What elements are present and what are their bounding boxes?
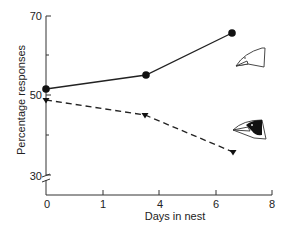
masked-bird-head-icon bbox=[233, 120, 266, 139]
data-point bbox=[228, 29, 236, 37]
y-tick-50: 50 bbox=[30, 89, 42, 101]
y-tick-70: 70 bbox=[30, 10, 42, 22]
x-tick-4: 4 bbox=[157, 198, 163, 210]
x-tick-0: 0 bbox=[44, 198, 50, 210]
series-masked-head-line bbox=[46, 100, 233, 152]
series-plain-head-line bbox=[46, 33, 232, 89]
x-tick-8: 8 bbox=[269, 198, 275, 210]
line-chart: 70 50 30 0 1 4 6 8 Days in nest Percenta… bbox=[0, 0, 291, 232]
x-tick-1: 1 bbox=[100, 198, 106, 210]
data-point bbox=[230, 150, 237, 156]
plain-bird-head-icon bbox=[236, 48, 265, 67]
x-axis-label: Days in nest bbox=[145, 210, 206, 222]
y-tick-30: 30 bbox=[30, 170, 42, 182]
data-point bbox=[142, 71, 150, 79]
y-axis-label: Percentage responses bbox=[15, 44, 27, 155]
x-tick-6: 6 bbox=[213, 198, 219, 210]
data-point bbox=[42, 85, 50, 93]
